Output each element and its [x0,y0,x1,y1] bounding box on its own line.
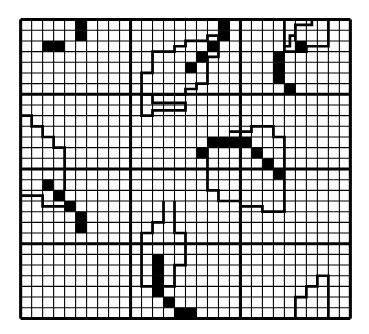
filled-cell [175,308,186,319]
filled-cell [43,180,54,191]
filled-cell [229,137,240,148]
grid-svg [19,18,352,320]
filled-cell [273,62,284,73]
region-outline [142,36,219,95]
filled-cell [240,137,251,148]
filled-cell [186,62,197,73]
filled-cell [76,222,87,233]
filled-cell [153,265,164,276]
filled-cell [262,158,273,169]
filled-cell [153,276,164,287]
filled-cell [251,148,262,159]
filled-cell [76,212,87,223]
grid-diagram [19,18,352,320]
filled-cell [273,169,284,180]
filled-cell [196,148,207,159]
filled-cell [164,297,175,308]
filled-cell [76,20,87,31]
filled-cell [218,20,229,31]
filled-cell [273,52,284,63]
filled-cell [218,137,229,148]
filled-cell [76,30,87,41]
filled-cell [207,137,218,148]
filled-cell [43,41,54,52]
filled-cell [54,41,65,52]
filled-cell [65,201,76,212]
filled-cell [54,190,65,201]
filled-cell [153,286,164,297]
filled-cell [207,41,218,52]
filled-cell [186,308,197,319]
filled-cell [295,41,306,52]
filled-cell [196,52,207,63]
filled-cell [218,30,229,41]
filled-cell [153,254,164,265]
filled-cell [284,84,295,95]
filled-cell [273,73,284,84]
